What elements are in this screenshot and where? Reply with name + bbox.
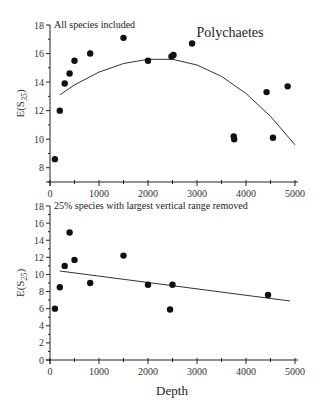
data-point <box>52 305 58 311</box>
panel-subtitle: 25% species with largest vertical range … <box>54 200 248 211</box>
x-tick-label: 4000 <box>236 366 256 377</box>
x-tick-label: 2000 <box>138 366 158 377</box>
data-point <box>231 136 237 142</box>
y-tick-label: 10 <box>34 269 44 280</box>
x-axis-title: Depth <box>156 383 188 398</box>
bottom-panel: 024681012141618010002000300040005000E(S2… <box>14 200 305 377</box>
y-tick-label: 16 <box>34 218 44 229</box>
data-point <box>57 107 63 113</box>
x-tick-label: 1000 <box>89 366 109 377</box>
data-point <box>120 252 126 258</box>
y-tick-label: 4 <box>39 320 44 331</box>
data-point <box>66 229 72 235</box>
data-point <box>263 89 269 95</box>
data-point <box>265 292 271 298</box>
x-tick-label: 0 <box>48 188 53 199</box>
data-point <box>145 282 151 288</box>
data-point <box>71 257 77 263</box>
y-tick-label: 0 <box>39 355 44 366</box>
data-point <box>61 80 67 86</box>
y-tick-label: 18 <box>34 20 44 31</box>
x-tick-label: 3000 <box>187 366 207 377</box>
x-tick-label: 5000 <box>285 366 305 377</box>
y-tick-label: 8 <box>39 286 44 297</box>
panel-subtitle: All species included <box>54 19 135 30</box>
y-tick-label: 12 <box>34 105 44 116</box>
data-point <box>87 280 93 286</box>
y-axis-label: E(S25) <box>14 269 29 298</box>
data-point <box>61 263 67 269</box>
data-point <box>169 282 175 288</box>
data-point <box>167 306 173 312</box>
data-point <box>120 35 126 41</box>
y-tick-label: 6 <box>39 303 44 314</box>
x-tick-label: 4000 <box>236 188 256 199</box>
chart-title: Polychaetes <box>197 25 264 40</box>
data-point <box>66 70 72 76</box>
data-point <box>170 52 176 58</box>
data-point <box>270 135 276 141</box>
y-tick-label: 10 <box>34 134 44 145</box>
y-tick-label: 12 <box>34 252 44 263</box>
data-point <box>57 284 63 290</box>
x-tick-label: 2000 <box>138 188 158 199</box>
data-point <box>87 50 93 56</box>
y-tick-label: 14 <box>34 77 44 88</box>
data-point <box>189 40 195 46</box>
top-panel: 81012141618010002000300040005000E(S35)Al… <box>14 19 305 199</box>
y-tick-label: 2 <box>39 337 44 348</box>
x-tick-label: 1000 <box>89 188 109 199</box>
chart-figure: 81012141618010002000300040005000E(S35)Al… <box>0 0 320 414</box>
y-tick-label: 18 <box>34 201 44 212</box>
x-tick-label: 3000 <box>187 188 207 199</box>
data-point <box>284 83 290 89</box>
y-tick-label: 14 <box>34 235 44 246</box>
y-tick-label: 16 <box>34 48 44 59</box>
y-axis-label: E(S35) <box>14 89 29 118</box>
fit-curve <box>60 59 295 145</box>
data-point <box>145 57 151 63</box>
y-tick-label: 8 <box>39 162 44 173</box>
data-point <box>71 57 77 63</box>
data-point <box>52 156 58 162</box>
x-tick-label: 5000 <box>285 188 305 199</box>
x-tick-label: 0 <box>48 366 53 377</box>
